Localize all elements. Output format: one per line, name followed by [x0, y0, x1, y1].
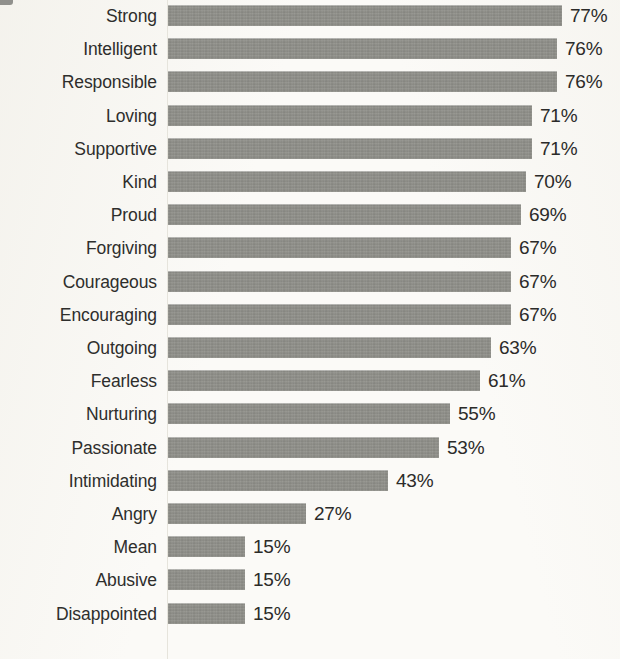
bar — [168, 171, 526, 192]
bar-category-label: Proud — [7, 203, 167, 227]
bar-category-label: Angry — [7, 502, 167, 526]
bar — [168, 569, 245, 590]
bar-value-label: 61% — [488, 369, 525, 393]
bar — [168, 370, 480, 391]
bar-value-label: 77% — [570, 4, 607, 28]
bar-row: Supportive71% — [0, 137, 620, 161]
bar — [168, 105, 532, 126]
bar — [168, 38, 557, 59]
bar-row: Courageous67% — [0, 270, 620, 294]
bar-category-label: Disappointed — [7, 602, 167, 626]
bar-row: Angry27% — [0, 502, 620, 526]
bar — [168, 337, 491, 358]
bar-value-label: 15% — [253, 602, 290, 626]
bar-category-label: Strong — [7, 4, 167, 28]
bar-category-label: Kind — [7, 170, 167, 194]
bar — [168, 603, 245, 624]
bar-row: Strong77% — [0, 4, 620, 28]
bar-category-label: Courageous — [7, 270, 167, 294]
bar-row: Outgoing63% — [0, 336, 620, 360]
bar-category-label: Passionate — [7, 436, 167, 460]
bar-category-label: Mean — [7, 535, 167, 559]
bar-value-label: 15% — [253, 568, 290, 592]
bar — [168, 271, 511, 292]
bar-category-label: Supportive — [7, 137, 167, 161]
bar — [168, 5, 562, 26]
bar-value-label: 27% — [314, 502, 351, 526]
bar-category-label: Nurturing — [7, 402, 167, 426]
bar — [168, 204, 521, 225]
bar — [168, 437, 439, 458]
bar-value-label: 15% — [253, 535, 290, 559]
bar-value-label: 76% — [565, 37, 602, 61]
bar — [168, 237, 511, 258]
bar — [168, 138, 532, 159]
bar-row: Kind70% — [0, 170, 620, 194]
bar-value-label: 71% — [540, 137, 577, 161]
bar — [168, 536, 245, 557]
bar-row: Intelligent76% — [0, 37, 620, 61]
bar — [168, 304, 511, 325]
bar-category-label: Loving — [7, 104, 167, 128]
bar-value-label: 53% — [447, 436, 484, 460]
bar-row: Encouraging67% — [0, 303, 620, 327]
bar-value-label: 71% — [540, 104, 577, 128]
bar-category-label: Encouraging — [7, 303, 167, 327]
bar-rows: Strong77%Intelligent76%Responsible76%Lov… — [0, 0, 620, 659]
bar-row: Proud69% — [0, 203, 620, 227]
bar-value-label: 63% — [499, 336, 536, 360]
bar-chart: Strong77%Intelligent76%Responsible76%Lov… — [0, 0, 620, 659]
bar-category-label: Abusive — [7, 568, 167, 592]
bar — [168, 470, 388, 491]
bar-row: Abusive15% — [0, 568, 620, 592]
bar-value-label: 69% — [529, 203, 566, 227]
bar — [168, 403, 450, 424]
bar-value-label: 76% — [565, 70, 602, 94]
bar-row: Passionate53% — [0, 436, 620, 460]
bar-row: Disappointed15% — [0, 602, 620, 626]
bar-value-label: 43% — [396, 469, 433, 493]
bar — [168, 503, 306, 524]
bar-row: Loving71% — [0, 104, 620, 128]
bar-value-label: 67% — [519, 236, 556, 260]
bar-category-label: Intimidating — [7, 469, 167, 493]
bar-row: Responsible76% — [0, 70, 620, 94]
bar-category-label: Intelligent — [7, 37, 167, 61]
bar-row: Fearless61% — [0, 369, 620, 393]
bar-row: Mean15% — [0, 535, 620, 559]
bar-value-label: 70% — [534, 170, 571, 194]
bar-category-label: Outgoing — [7, 336, 167, 360]
bar-row: Forgiving67% — [0, 236, 620, 260]
bar-category-label: Responsible — [7, 70, 167, 94]
bar — [168, 71, 557, 92]
bar-row: Intimidating43% — [0, 469, 620, 493]
bar-category-label: Forgiving — [7, 236, 167, 260]
bar-value-label: 55% — [458, 402, 495, 426]
bar-value-label: 67% — [519, 270, 556, 294]
bar-value-label: 67% — [519, 303, 556, 327]
bar-row: Nurturing55% — [0, 402, 620, 426]
bar-category-label: Fearless — [7, 369, 167, 393]
